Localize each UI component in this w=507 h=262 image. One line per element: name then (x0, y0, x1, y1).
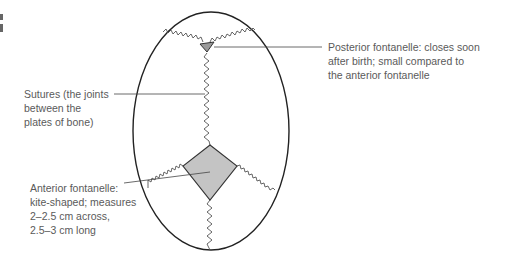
suture-lambdoid-right (210, 28, 255, 42)
label-line: 2–2.5 cm across, (30, 209, 136, 223)
label-line: kite-shaped; measures (30, 195, 136, 209)
label-line: plates of bone) (24, 115, 109, 129)
sutures (148, 28, 275, 250)
label-line: Sutures (the joints (24, 87, 109, 101)
skull-outline (133, 12, 289, 250)
suture-metopic (207, 200, 212, 250)
label-anterior-fontanelle: Anterior fontanelle: kite-shaped; measur… (30, 181, 136, 237)
posterior-fontanelle (200, 42, 214, 52)
suture-coronal-right (237, 165, 275, 190)
label-line: after birth; small compared to (328, 54, 480, 68)
label-line: the anterior fontanelle (328, 68, 480, 82)
label-line: between the (24, 101, 109, 115)
suture-sagittal (204, 53, 210, 145)
label-posterior-fontanelle: Posterior fontanelle: closes soon after … (328, 40, 480, 82)
label-sutures: Sutures (the joints between the plates o… (24, 87, 109, 129)
anterior-fontanelle (183, 145, 237, 200)
label-line: Posterior fontanelle: closes soon (328, 40, 480, 54)
label-line: 2.5–3 cm long (30, 223, 136, 237)
label-line: Anterior fontanelle: (30, 181, 136, 195)
